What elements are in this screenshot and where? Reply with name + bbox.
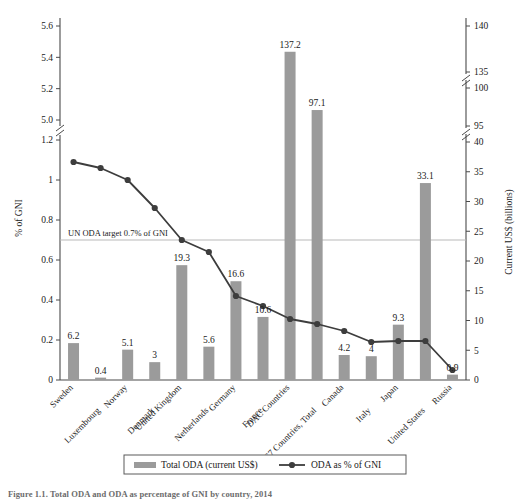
svg-text:5.4: 5.4 bbox=[41, 53, 53, 63]
line-marker bbox=[314, 321, 320, 327]
bar bbox=[285, 52, 296, 380]
figure-caption: Figure 1.1. Total ODA and ODA as percent… bbox=[8, 489, 520, 499]
svg-text:UN ODA target 0.7% of GNI: UN ODA target 0.7% of GNI bbox=[68, 228, 168, 238]
legend-label-bar: Total ODA (current US$) bbox=[161, 460, 258, 471]
line-marker bbox=[152, 205, 158, 211]
svg-text:40: 40 bbox=[474, 137, 484, 147]
bar bbox=[95, 378, 106, 380]
bar-value-label: 33.1 bbox=[417, 171, 434, 181]
bar bbox=[393, 325, 404, 380]
svg-text:0: 0 bbox=[48, 375, 53, 385]
svg-text:0.4: 0.4 bbox=[41, 295, 53, 305]
svg-text:30: 30 bbox=[474, 197, 484, 207]
svg-text:1: 1 bbox=[48, 175, 53, 185]
bar bbox=[149, 362, 160, 380]
bar-value-label: 5.1 bbox=[122, 338, 134, 348]
line-marker bbox=[98, 165, 104, 171]
svg-text:0.6: 0.6 bbox=[41, 255, 53, 265]
svg-text:1.2: 1.2 bbox=[41, 135, 53, 145]
svg-text:5.0: 5.0 bbox=[41, 115, 53, 125]
line-marker bbox=[422, 338, 428, 344]
svg-text:135: 135 bbox=[474, 67, 489, 77]
line-marker bbox=[395, 338, 401, 344]
svg-text:% of GNI: % of GNI bbox=[14, 199, 24, 236]
bar bbox=[339, 355, 350, 380]
svg-text:Current US$ (billions): Current US$ (billions) bbox=[504, 189, 515, 275]
line-marker bbox=[179, 237, 185, 243]
figure-container: 00.20.40.60.811.25.05.25.45.6% of GNI 05… bbox=[0, 0, 526, 501]
svg-text:25: 25 bbox=[474, 227, 484, 237]
svg-text:5.2: 5.2 bbox=[41, 84, 53, 94]
bar bbox=[203, 347, 214, 380]
bar-value-label: 0.4 bbox=[95, 366, 107, 376]
bar-value-label: 97.1 bbox=[309, 98, 326, 108]
bar-value-label: 6.2 bbox=[68, 331, 80, 341]
legend-bar-swatch bbox=[134, 462, 156, 468]
legend-line-marker bbox=[289, 462, 295, 468]
svg-text:5.6: 5.6 bbox=[41, 21, 53, 31]
svg-text:100: 100 bbox=[474, 83, 489, 93]
bar-value-label: 10.6 bbox=[255, 305, 272, 315]
svg-text:0.8: 0.8 bbox=[41, 215, 53, 225]
bar bbox=[312, 110, 323, 380]
bar bbox=[176, 265, 187, 380]
svg-text:0: 0 bbox=[474, 375, 479, 385]
line-marker bbox=[287, 316, 293, 322]
bar bbox=[68, 343, 79, 380]
bar bbox=[258, 317, 269, 380]
bar-value-label: 137.2 bbox=[279, 40, 301, 50]
bar-value-label: 4 bbox=[369, 344, 374, 354]
bar-value-label: 9.3 bbox=[392, 313, 404, 323]
bar-value-label: 3 bbox=[152, 350, 157, 360]
line-marker bbox=[206, 249, 212, 255]
line-marker bbox=[341, 328, 347, 334]
bar-value-label: 19.3 bbox=[173, 253, 190, 263]
line-marker bbox=[70, 159, 76, 165]
bar-value-label: 5.6 bbox=[203, 335, 215, 345]
line-marker bbox=[125, 177, 131, 183]
svg-text:35: 35 bbox=[474, 167, 484, 177]
bar bbox=[122, 350, 133, 380]
bar bbox=[366, 356, 377, 380]
svg-text:20: 20 bbox=[474, 256, 484, 266]
svg-text:0.2: 0.2 bbox=[41, 335, 53, 345]
svg-text:15: 15 bbox=[474, 286, 484, 296]
svg-text:5: 5 bbox=[474, 346, 479, 356]
svg-text:140: 140 bbox=[474, 21, 489, 31]
bar-value-label: 4.2 bbox=[338, 343, 350, 353]
bar-value-label: 0.9 bbox=[447, 363, 459, 373]
oda-chart: 00.20.40.60.811.25.05.25.45.6% of GNI 05… bbox=[0, 0, 526, 501]
svg-text:10: 10 bbox=[474, 316, 484, 326]
bar-value-label: 16.6 bbox=[228, 269, 245, 279]
line-marker bbox=[233, 293, 239, 299]
bar bbox=[447, 375, 458, 380]
legend-label-line: ODA as % of GNI bbox=[311, 460, 381, 470]
bar bbox=[420, 183, 431, 380]
chart-legend: Total ODA (current US$)ODA as % of GNI bbox=[124, 455, 406, 474]
svg-text:95: 95 bbox=[474, 121, 484, 131]
